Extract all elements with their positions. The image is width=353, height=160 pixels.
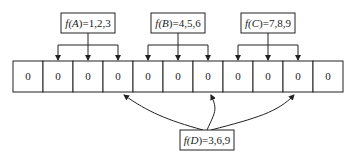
hash-connector-c [238,33,298,60]
diagram-canvas: 00000000000 f(A)=1,2,3f(B)=4,5,6f(C)=7,8… [0,0,353,160]
hash-function-a: f(A)=1,2,3 [61,13,115,33]
bloom-filter-diagram: 00000000000 f(A)=1,2,3f(B)=4,5,6f(C)=7,8… [0,0,353,160]
bit-cell: 0 [163,61,193,92]
bit-value: 0 [325,70,331,82]
hash-function-b: f(B)=4,5,6 [151,13,205,33]
bit-value: 0 [115,70,121,82]
hash-label: f(C)=7,8,9 [245,17,291,30]
bit-array: 00000000000 [13,61,343,92]
bit-value: 0 [265,70,271,82]
bit-value: 0 [145,70,151,82]
hash-label: f(B)=4,5,6 [155,17,201,30]
hash-connector-b [148,33,208,60]
bit-value: 0 [295,70,301,82]
hash-function-d: f(D)=3,6,9 [180,130,234,150]
bit-value: 0 [235,70,241,82]
bit-cell: 0 [193,61,223,92]
bit-value: 0 [55,70,61,82]
bit-cell: 0 [253,61,283,92]
bit-cell: 0 [133,61,163,92]
curved-arrow-to-cell [124,95,203,130]
bit-cell: 0 [103,61,133,92]
hash-function-c: f(C)=7,8,9 [241,13,295,33]
hash-label: f(A)=1,2,3 [65,17,111,30]
bit-cell: 0 [313,61,343,92]
bit-cell: 0 [73,61,103,92]
bit-cell: 0 [283,61,313,92]
curved-arrow-to-cell [211,95,294,130]
bit-value: 0 [175,70,181,82]
hash-connector-a [58,33,118,60]
bit-value: 0 [85,70,91,82]
curved-arrow-to-cell [207,95,215,130]
bit-value: 0 [205,70,211,82]
bit-value: 0 [25,70,31,82]
hash-connector-d [124,95,294,130]
bit-cell: 0 [43,61,73,92]
hash-label: f(D)=3,6,9 [184,134,231,147]
bit-cell: 0 [13,61,43,92]
bit-cell: 0 [223,61,253,92]
